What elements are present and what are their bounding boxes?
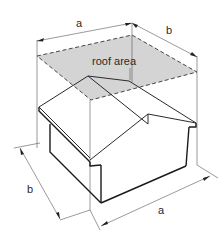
roof-gable-front [90, 114, 148, 160]
label-top-b: b [166, 24, 172, 36]
extension-line-a-left [90, 210, 100, 230]
extension-line-a-right [197, 165, 218, 178]
extension-line-b-top [14, 143, 40, 148]
arrowhead [37, 38, 44, 42]
arrowhead [125, 23, 132, 26]
roof-eave-front [90, 162, 101, 166]
dimension-line-bottom-a [101, 176, 210, 226]
arrowhead [132, 23, 138, 28]
label-top-a: a [76, 17, 83, 29]
wall-left [50, 124, 101, 203]
wall-front-bottom [101, 166, 186, 203]
arrowhead [20, 148, 24, 155]
arrowhead [56, 212, 60, 219]
wall-right-corner [186, 127, 189, 166]
label-roof-area: roof area [92, 55, 137, 67]
arrowhead [101, 221, 108, 226]
arrowhead [190, 52, 197, 57]
label-bottom-a: a [158, 204, 165, 216]
arrowhead [203, 176, 210, 181]
extension-line-b-bottom [60, 210, 90, 220]
dimension-line-bottom-b [20, 148, 60, 219]
roof-area-diagram: a b roof area b a [0, 0, 220, 238]
roof-eave-right [189, 123, 196, 127]
label-bottom-b: b [27, 183, 33, 195]
roof-eave-left-inner [39, 107, 90, 158]
